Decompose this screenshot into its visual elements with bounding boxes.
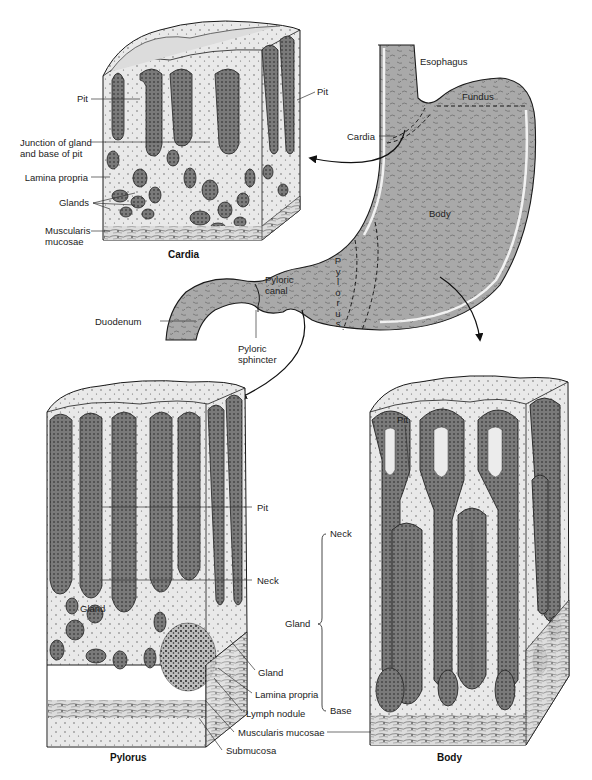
submucosa-label: Submucosa <box>226 745 276 756</box>
muscularis-mucosae-label: Muscularis mucosae <box>238 727 325 738</box>
body-tissue-block <box>318 376 569 745</box>
pylorus-lamina-propria-label: Lamina propria <box>255 689 318 700</box>
pylorus-region-label: P y l o r u s <box>334 256 342 330</box>
cardia-pit-right-label: Pit <box>317 86 328 97</box>
body-neck-label: Neck <box>330 528 352 539</box>
body-pit-label: Pit <box>397 414 408 425</box>
pylorus-caption: Pylorus <box>110 752 147 763</box>
fundus-label: Fundus <box>462 91 494 102</box>
pylorus-gland-inner-label: Gland <box>80 603 105 614</box>
cardia-region-label: Cardia <box>347 131 375 142</box>
cardia-muscularis-label-line2: mucosae <box>45 236 84 247</box>
cardia-junction-label-line2: and base of pit <box>20 148 82 159</box>
cardia-junction-label-line1: Junction of gland <box>20 137 92 148</box>
cardia-tissue-block <box>91 21 315 240</box>
cardia-caption: Cardia <box>168 249 199 260</box>
cardia-glands-label: Glands <box>20 197 89 208</box>
cardia-pit-label: Pit <box>40 93 88 104</box>
duodenum-label: Duodenum <box>95 316 141 327</box>
pyloric-sphincter-label: Pyloric sphincter <box>238 343 288 365</box>
pylorus-pit-label: Pit <box>257 502 268 513</box>
pylorus-tissue-block <box>47 381 372 750</box>
pyloric-canal-label: Pyloric canal <box>265 274 305 296</box>
body-gland-label: Gland <box>285 618 310 629</box>
body-caption: Body <box>437 752 462 763</box>
diagram-artwork <box>0 0 592 780</box>
lymph-nodule-label: Lymph nodule <box>246 708 305 719</box>
esophagus-label: Esophagus <box>420 56 468 67</box>
cardia-lamina-propria-label: Lamina propria <box>10 172 88 183</box>
body-base-label: Base <box>330 705 352 716</box>
cardia-muscularis-label-line1: Muscularis <box>45 225 90 236</box>
pylorus-neck-label: Neck <box>257 575 279 586</box>
pylorus-gland-label: Gland <box>258 667 283 678</box>
body-region-label: Body <box>429 208 451 219</box>
